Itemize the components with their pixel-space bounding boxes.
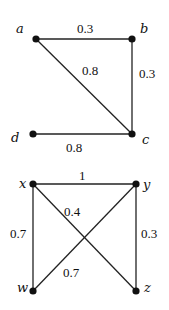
weighted-graphs-diagram: 0.30.30.80.8abcd10.70.30.40.7xywz [0, 0, 169, 310]
node-label-x: x [19, 176, 27, 191]
edge-weight-a-c: 0.8 [82, 63, 98, 78]
node-label-y: y [142, 177, 151, 192]
node-label-c: c [142, 132, 150, 147]
edge-weight-x-y: 1 [79, 168, 86, 183]
edge-weight-a-b: 0.3 [77, 21, 93, 36]
node-c [128, 130, 135, 137]
edge-weight-w-y: 0.7 [63, 265, 80, 280]
node-b [128, 35, 135, 42]
node-a [32, 35, 39, 42]
node-label-d: d [11, 130, 19, 145]
node-label-b: b [140, 21, 148, 36]
node-w [29, 287, 36, 294]
edge-weight-x-z: 0.4 [64, 204, 81, 219]
node-label-w: w [17, 280, 28, 295]
graph-2: 10.70.30.40.7xywz [10, 168, 157, 295]
edge-weight-x-w: 0.7 [10, 226, 27, 241]
node-d [29, 130, 36, 137]
edge-weight-d-c: 0.8 [66, 140, 82, 155]
edge-a-c [36, 39, 132, 134]
node-x [29, 180, 36, 187]
node-label-z: z [143, 280, 151, 295]
graph-1: 0.30.30.80.8abcd [11, 21, 155, 155]
node-z [132, 287, 139, 294]
node-label-a: a [16, 21, 24, 36]
node-y [132, 180, 139, 187]
edge-weight-y-z: 0.3 [141, 226, 157, 241]
edge-weight-b-c: 0.3 [139, 66, 155, 81]
